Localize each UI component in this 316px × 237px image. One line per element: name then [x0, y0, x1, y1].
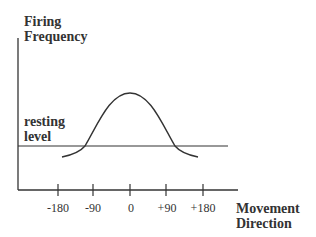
resting-label-line1: resting	[24, 114, 65, 129]
y-axis-label: Firing Frequency	[24, 14, 88, 44]
y-axis-label-line2: Frequency	[24, 29, 88, 44]
tuning-curve	[62, 93, 198, 157]
tuning-curve-diagram: Firing Frequency resting level -180 -90 …	[0, 0, 316, 237]
resting-label-line2: level	[24, 129, 65, 144]
x-axis-label-line1: Movement	[236, 201, 300, 216]
x-axis-label-line2: Direction	[236, 216, 300, 231]
tick-label: 0	[128, 201, 134, 216]
tick-label: +180	[191, 201, 216, 216]
tick-label: +90	[158, 201, 177, 216]
x-axis-label: Movement Direction	[236, 201, 300, 231]
resting-level-label: resting level	[24, 114, 65, 144]
tick-label: -180	[47, 201, 69, 216]
y-axis-label-line1: Firing	[24, 14, 88, 29]
tick-label: -90	[85, 201, 101, 216]
